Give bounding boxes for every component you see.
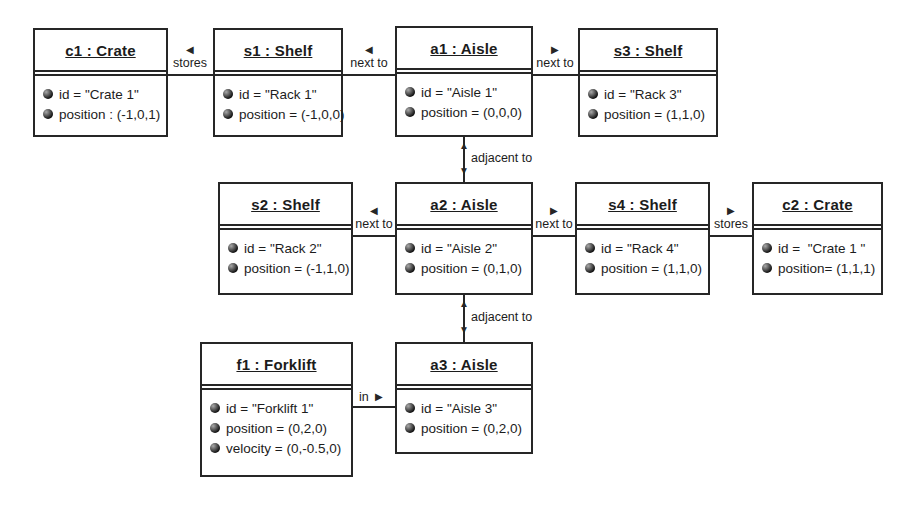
arrow-up-icon: ▲ bbox=[459, 141, 469, 151]
attribute-compartment: id = "Crate 1" position : (-1,0,1) bbox=[35, 76, 166, 128]
uml-object-diagram: c1 : Crate id = "Crate 1" position : (-1… bbox=[0, 0, 918, 512]
link-line-c1-s1 bbox=[168, 74, 213, 76]
link-label-nextto-s4: ▶ next to bbox=[524, 206, 584, 231]
link-label-nextto-s1: ◀ next to bbox=[339, 45, 399, 70]
object-title: a1 : Aisle bbox=[397, 28, 531, 68]
arrow-up-icon: ▲ bbox=[459, 299, 469, 309]
object-box-a2: a2 : Aisle id = "Aisle 2" position = (0,… bbox=[395, 182, 533, 295]
attribute-visibility-icon bbox=[210, 403, 220, 413]
object-title: s4 : Shelf bbox=[577, 184, 708, 224]
attribute-row: position = (1,1,0) bbox=[583, 258, 702, 278]
link-line-s4-c2 bbox=[710, 235, 752, 237]
attribute-row: velocity = (0,-0.5,0) bbox=[208, 438, 345, 458]
attribute-row: position = (-1,1,0) bbox=[226, 258, 345, 278]
attribute-visibility-icon bbox=[588, 109, 598, 119]
attribute-visibility-icon bbox=[405, 263, 415, 273]
attribute-text: position = (0,2,0) bbox=[226, 421, 327, 436]
attribute-visibility-icon bbox=[223, 89, 233, 99]
attribute-text: position = (-1,0,0) bbox=[239, 107, 344, 122]
attribute-text: position : (-1,0,1) bbox=[59, 107, 160, 122]
attribute-row: id = "Aisle 1" bbox=[403, 82, 525, 102]
link-label-text: adjacent to bbox=[471, 151, 532, 165]
object-title: a3 : Aisle bbox=[397, 344, 531, 384]
arrow-left-icon: ◀ bbox=[370, 206, 378, 216]
attribute-text: position= (1,1,1) bbox=[778, 261, 875, 276]
arrow-right-icon: ▶ bbox=[551, 45, 559, 55]
attribute-visibility-icon bbox=[405, 403, 415, 413]
attribute-text: id = "Rack 1" bbox=[239, 87, 317, 102]
arrow-left-icon: ◀ bbox=[186, 45, 194, 55]
link-label-text: next to bbox=[534, 217, 574, 231]
object-title: c1 : Crate bbox=[35, 30, 166, 70]
attribute-text: position = (1,1,0) bbox=[601, 261, 702, 276]
object-title: c2 : Crate bbox=[754, 184, 881, 224]
attribute-row: position = (0,1,0) bbox=[403, 258, 525, 278]
attribute-row: id = "Rack 4" bbox=[583, 238, 702, 258]
attribute-row: id = "Rack 3" bbox=[586, 84, 710, 104]
arrow-down-icon: ▼ bbox=[459, 166, 469, 176]
link-label-text: stores bbox=[172, 56, 208, 70]
attribute-text: id = "Rack 4" bbox=[601, 241, 679, 256]
link-line-a2-s4 bbox=[533, 235, 575, 237]
link-label-nextto-s3: ▶ next to bbox=[525, 45, 585, 70]
object-box-s3: s3 : Shelf id = "Rack 3" position = (1,1… bbox=[578, 28, 718, 137]
object-box-f1: f1 : Forklift id = "Forklift 1" position… bbox=[200, 342, 353, 477]
link-label-nextto-s2: ◀ next to bbox=[344, 206, 404, 231]
object-box-c2: c2 : Crate id = "Crate 1 " position= (1,… bbox=[752, 182, 883, 295]
attribute-text: position = (0,0,0) bbox=[421, 105, 522, 120]
attribute-text: position = (1,1,0) bbox=[604, 107, 705, 122]
attribute-compartment: id = "Rack 2" position = (-1,1,0) bbox=[220, 230, 351, 282]
attribute-visibility-icon bbox=[762, 263, 772, 273]
attribute-row: position = (0,2,0) bbox=[403, 418, 525, 438]
attribute-row: position= (1,1,1) bbox=[760, 258, 875, 278]
attribute-row: position = (0,0,0) bbox=[403, 102, 525, 122]
attribute-visibility-icon bbox=[405, 243, 415, 253]
attribute-row: position = (0,2,0) bbox=[208, 418, 345, 438]
link-label-text: stores bbox=[713, 217, 749, 231]
link-label-text: in bbox=[359, 390, 369, 404]
attribute-compartment: id = "Aisle 3" position = (0,2,0) bbox=[397, 390, 531, 442]
attribute-row: position : (-1,0,1) bbox=[41, 104, 160, 124]
link-line-s2-a2 bbox=[353, 235, 395, 237]
object-box-s4: s4 : Shelf id = "Rack 4" position = (1,1… bbox=[575, 182, 710, 295]
object-title: a2 : Aisle bbox=[397, 184, 531, 224]
object-title: s1 : Shelf bbox=[215, 30, 341, 70]
attribute-visibility-icon bbox=[405, 423, 415, 433]
attribute-compartment: id = "Rack 1" position = (-1,0,0) bbox=[215, 76, 341, 128]
arrow-right-icon: ▶ bbox=[550, 206, 558, 216]
attribute-row: id = "Crate 1" bbox=[41, 84, 160, 104]
object-box-c1: c1 : Crate id = "Crate 1" position : (-1… bbox=[33, 28, 168, 137]
object-title: s3 : Shelf bbox=[580, 30, 716, 70]
attribute-text: position = (-1,1,0) bbox=[244, 261, 349, 276]
arrow-right-icon: ▶ bbox=[727, 206, 735, 216]
attribute-text: position = (0,1,0) bbox=[421, 261, 522, 276]
link-label-in-f1: in ▶ bbox=[359, 390, 383, 404]
attribute-compartment: id = "Crate 1 " position= (1,1,1) bbox=[754, 230, 881, 282]
attribute-row: id = "Forklift 1" bbox=[208, 398, 345, 418]
attribute-row: id = "Aisle 2" bbox=[403, 238, 525, 258]
link-label-stores-c2: ▶ stores bbox=[701, 206, 761, 231]
link-label-text: next to bbox=[349, 56, 389, 70]
attribute-row: id = "Aisle 3" bbox=[403, 398, 525, 418]
attribute-visibility-icon bbox=[405, 107, 415, 117]
attribute-visibility-icon bbox=[43, 89, 53, 99]
object-box-a1: a1 : Aisle id = "Aisle 1" position = (0,… bbox=[395, 26, 533, 137]
attribute-visibility-icon bbox=[223, 109, 233, 119]
link-label-text: next to bbox=[535, 56, 575, 70]
link-line-s1-a1 bbox=[343, 74, 395, 76]
link-line-f1-a3 bbox=[353, 406, 395, 408]
attribute-visibility-icon bbox=[405, 87, 415, 97]
attribute-text: id = "Crate 1 " bbox=[778, 241, 865, 256]
attribute-visibility-icon bbox=[585, 263, 595, 273]
object-title: s2 : Shelf bbox=[220, 184, 351, 224]
attribute-text: id = "Rack 3" bbox=[604, 87, 682, 102]
attribute-visibility-icon bbox=[762, 243, 772, 253]
attribute-compartment: id = "Forklift 1" position = (0,2,0) vel… bbox=[202, 390, 351, 462]
attribute-visibility-icon bbox=[210, 423, 220, 433]
attribute-visibility-icon bbox=[228, 243, 238, 253]
attribute-visibility-icon bbox=[228, 263, 238, 273]
arrow-down-icon: ▼ bbox=[459, 325, 469, 335]
attribute-visibility-icon bbox=[585, 243, 595, 253]
attribute-compartment: id = "Rack 4" position = (1,1,0) bbox=[577, 230, 708, 282]
arrow-right-icon: ▶ bbox=[375, 392, 383, 402]
